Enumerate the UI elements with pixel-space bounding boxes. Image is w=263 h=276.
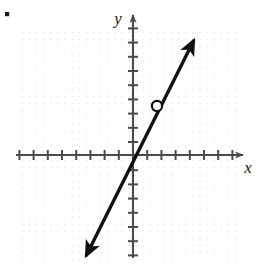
open-circle-discontinuity bbox=[152, 101, 162, 111]
y-axis-label: y bbox=[112, 9, 122, 28]
coordinate-plane-graph: y x bbox=[0, 0, 263, 276]
figure-container: y x bbox=[0, 0, 263, 276]
item-bullet bbox=[5, 12, 9, 16]
x-axis-label: x bbox=[243, 158, 252, 177]
